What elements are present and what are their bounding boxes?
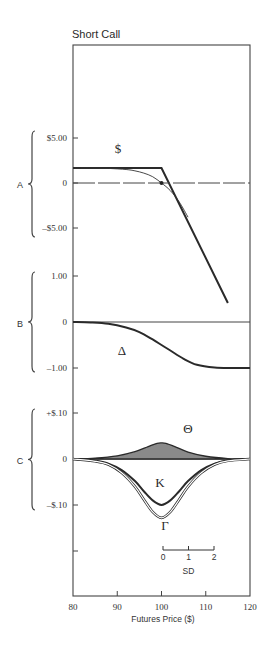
sd-tick-label: 1 (186, 552, 191, 562)
x-tick-label: 110 (199, 602, 213, 612)
y-tick-label: +$.10 (46, 408, 67, 418)
panel-label: C (17, 456, 24, 466)
kappa-label: K (155, 475, 165, 490)
panel-C: C+$.100–$.10ΘKΓ012SD (17, 408, 250, 576)
sd-scale: 012SD (161, 546, 217, 576)
panels: A$5.000–$5.00$B1.000–1.00ΔC+$.100–$.10ΘK… (17, 131, 250, 576)
panel-brace (28, 409, 35, 510)
y-tick-label: 0 (63, 317, 68, 327)
y-tick-label: –$5.00 (41, 223, 67, 233)
delta-curve (73, 322, 250, 368)
y-tick-label: 0 (63, 178, 68, 188)
panel-label: B (17, 319, 23, 329)
strike-marker (160, 181, 164, 185)
x-axis: 8090100110120 (69, 591, 258, 612)
y-tick-label: 0 (63, 454, 68, 464)
theta-area (73, 443, 250, 459)
sd-tick-label: 0 (161, 552, 166, 562)
plot-border (73, 45, 250, 596)
current-value-curve (73, 168, 188, 217)
delta-label: Δ (118, 343, 126, 358)
theta-label: Θ (183, 421, 192, 436)
x-tick-label: 120 (243, 602, 257, 612)
sd-tick-label: 2 (212, 552, 217, 562)
x-tick-label: 80 (69, 602, 79, 612)
payoff-line (73, 168, 228, 303)
plot-frame (73, 45, 250, 596)
y-tick-label: –1.00 (46, 363, 68, 373)
panel-B: B1.000–1.00Δ (17, 271, 250, 373)
expiration-payoff-label: $ (115, 141, 122, 156)
x-tick-label: 90 (113, 602, 123, 612)
chart-title: Short Call (72, 28, 120, 40)
y-tick-label: $5.00 (47, 133, 68, 143)
x-tick-label: 100 (155, 602, 169, 612)
y-tick-label: 1.00 (51, 271, 67, 281)
x-axis-title: Futures Price ($) (131, 614, 194, 624)
panel-brace (28, 131, 35, 237)
y-tick-label: –$.10 (46, 500, 68, 510)
short-call-chart: Short Call A$5.000–$5.00$B1.000–1.00ΔC+$… (0, 0, 274, 655)
panel-brace (28, 272, 35, 372)
gamma-label: Γ (161, 518, 169, 533)
sd-scale-label: SD (183, 566, 195, 576)
panel-label: A (17, 180, 23, 190)
